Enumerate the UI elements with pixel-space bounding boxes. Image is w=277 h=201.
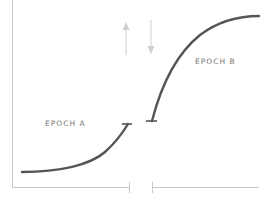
epoch-a-curve: [22, 124, 128, 172]
epoch-b-label: EPOCH B: [195, 57, 236, 66]
epoch-a-label: EPOCH A: [45, 119, 86, 128]
down-arrow-icon: [148, 20, 155, 54]
epoch-diagram: [0, 0, 277, 201]
up-arrow-icon: [123, 22, 130, 55]
epoch-b-curve: [152, 16, 259, 121]
